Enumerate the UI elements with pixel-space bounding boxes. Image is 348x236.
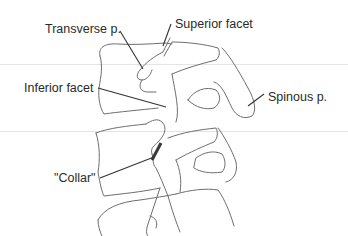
upper-spinous-process [164, 42, 219, 122]
label-collar: "Collar" [54, 172, 96, 185]
middle-lamina [168, 128, 217, 160]
middle-vertebral-body [96, 124, 160, 196]
vertebra-diagram: Transverse p. Superior facet Inferior fa… [0, 0, 348, 236]
middle-pedicle [146, 120, 168, 196]
upper-vertebral-body [99, 43, 172, 114]
label-transverse-process: Transverse p. [45, 23, 121, 36]
lower-facet [150, 216, 157, 228]
lower-vertebral-body [98, 194, 176, 236]
label-superior-facet: Superior facet [175, 18, 253, 31]
upper-transverse-process [137, 38, 170, 92]
leader-superior-facet [163, 24, 171, 46]
leader-collar [100, 157, 154, 178]
leader-transverse-process [120, 31, 143, 69]
middle-lower-contour [176, 128, 237, 192]
label-spinous-process: Spinous p. [268, 91, 327, 104]
middle-spinous-process [194, 152, 225, 173]
inferior-facet-loop [188, 88, 220, 108]
leader-spinous-process [248, 94, 264, 106]
lower-pedicle [147, 188, 235, 236]
label-inferior-facet: Inferior facet [24, 82, 93, 95]
upper-spinous-tip [214, 48, 255, 118]
leader-inferior-facet [98, 88, 166, 107]
